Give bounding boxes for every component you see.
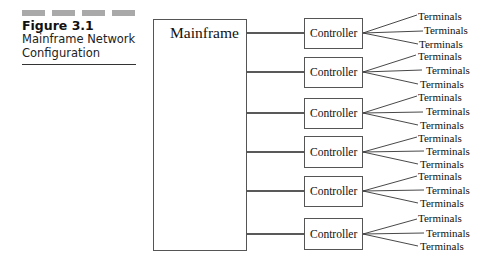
terminals-label: Terminals [420, 158, 464, 170]
terminals-label: Terminals [426, 227, 470, 239]
controller-node-4: Controller Terminals Terminals Terminals [247, 132, 470, 170]
controller-node-6: Controller Terminals Terminals Terminals [247, 212, 470, 252]
terminal-link [363, 70, 422, 72]
terminal-link [363, 113, 418, 125]
terminal-link [363, 152, 418, 164]
terminals-label: Terminals [419, 38, 463, 50]
terminals-label: Terminals [426, 184, 470, 196]
controller-label: Controller [310, 146, 357, 158]
terminals-label: Terminals [418, 212, 462, 224]
terminal-link [363, 33, 418, 44]
controller-node-1: Controller Terminals Terminals Terminals [247, 10, 468, 50]
terminals-label: Terminals [418, 132, 462, 144]
terminal-link [363, 55, 416, 72]
controller-label: Controller [310, 27, 357, 39]
controller-node-5: Controller Terminals Terminals Terminals [247, 170, 470, 209]
terminal-link [363, 190, 424, 191]
controller-label: Controller [310, 66, 357, 78]
terminal-link [363, 112, 423, 113]
controller-node-2: Controller Terminals Terminals Terminals [247, 50, 470, 90]
terminals-label: Terminals [420, 78, 464, 90]
terminals-label: Terminals [418, 91, 462, 103]
terminals-label: Terminals [426, 145, 470, 157]
network-diagram: Mainframe Controller Terminals Terminals… [0, 0, 499, 268]
terminal-link [363, 191, 418, 203]
terminals-label: Terminals [420, 119, 464, 131]
terminal-link [363, 137, 417, 152]
terminal-link [363, 234, 418, 246]
mainframe-box [154, 20, 247, 251]
terminal-link [363, 15, 417, 33]
mainframe-node: Mainframe [154, 20, 247, 251]
controller-label: Controller [310, 107, 357, 119]
terminal-link [363, 219, 417, 234]
controller-label: Controller [310, 185, 357, 197]
terminals-label: Terminals [426, 64, 470, 76]
terminals-label: Terminals [424, 24, 468, 36]
terminals-label: Terminals [418, 170, 462, 182]
terminals-label: Terminals [418, 10, 462, 22]
terminals-label: Terminals [420, 197, 464, 209]
terminal-link [363, 233, 424, 234]
mainframe-label: Mainframe [170, 24, 239, 41]
terminal-link [363, 96, 417, 113]
terminal-link [363, 31, 423, 33]
terminal-link [363, 151, 424, 152]
terminal-link [363, 72, 418, 84]
terminals-label: Terminals [420, 240, 464, 252]
controller-label: Controller [310, 228, 357, 240]
terminals-label: Terminals [426, 105, 470, 117]
terminal-link [363, 176, 417, 191]
terminals-label: Terminals [418, 50, 462, 62]
controller-node-3: Controller Terminals Terminals Terminals [247, 91, 470, 131]
